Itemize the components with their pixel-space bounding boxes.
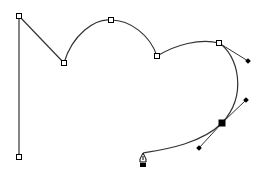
anchor-point[interactable] <box>17 155 22 160</box>
segment-arc-2 <box>157 41 219 56</box>
anchor-point[interactable] <box>62 61 67 66</box>
anchor-points <box>17 14 226 160</box>
direction-handles <box>199 43 248 148</box>
anchor-point[interactable] <box>109 18 114 23</box>
segment-diagonal <box>19 16 64 63</box>
segment-arc-1 <box>64 20 157 63</box>
handle-line <box>199 123 222 148</box>
handle-point[interactable] <box>245 58 251 64</box>
segment-arc-4 <box>143 123 222 153</box>
path-segments <box>19 16 238 157</box>
anchor-point[interactable] <box>17 14 22 19</box>
anchor-point[interactable] <box>155 54 160 59</box>
handle-points <box>196 58 251 151</box>
anchor-point[interactable] <box>217 41 222 46</box>
handle-line <box>219 43 248 61</box>
anchor-point-selected[interactable] <box>219 120 225 126</box>
pen-tool-icon <box>140 153 146 167</box>
path-canvas[interactable] <box>0 0 263 179</box>
